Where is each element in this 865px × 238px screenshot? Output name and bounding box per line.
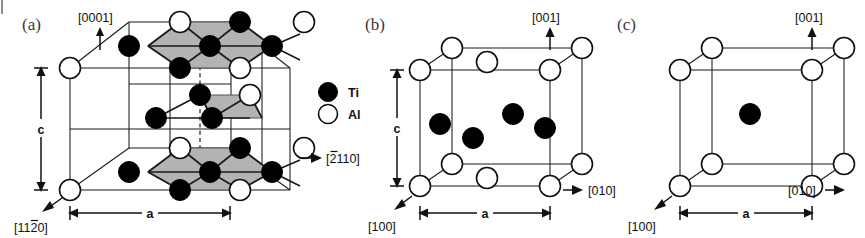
legend-al-swatch-icon (319, 105, 338, 124)
dir-2110-bar: 2 (329, 152, 336, 166)
atom-legend: Ti Al (319, 83, 361, 124)
ti-atom (119, 36, 140, 57)
panel-b-atoms-ti (430, 104, 556, 149)
ti-atom (503, 104, 524, 125)
panel-c-tag: (c) (617, 15, 636, 34)
ti-atom (202, 108, 223, 129)
al-atom (170, 138, 191, 159)
al-atom (60, 180, 81, 201)
panel-a-direction-1120-arrow (42, 198, 62, 212)
panel-a-dimension-a-label: a (147, 207, 155, 221)
ti-atom (463, 128, 484, 149)
panel-a-direction-0001-label: [0001] (78, 11, 113, 25)
al-atom (410, 176, 431, 197)
panel-c-direction-001-arrow (808, 27, 817, 50)
ti-atom (146, 108, 167, 129)
al-atom (572, 154, 593, 175)
al-atom (702, 154, 723, 175)
al-atom (834, 38, 855, 59)
panel-c-direction-100-arrow (654, 196, 672, 210)
al-atom (442, 154, 463, 175)
ti-atom (119, 162, 140, 183)
al-atom (230, 180, 251, 201)
ti-atom (230, 12, 251, 33)
panel-b-direction-100-arrow (394, 196, 412, 210)
al-atom (540, 176, 561, 197)
al-atom-face-center-top (477, 52, 498, 73)
panel-b-tag: (b) (365, 15, 385, 34)
legend-al-label: Al (348, 108, 361, 122)
panel-b-dimension-c: c (389, 68, 406, 188)
ti-atom (262, 162, 283, 183)
ti-atom (535, 118, 556, 139)
panel-c-dimension-a: a (678, 204, 814, 222)
panel-b-direction-001-label: [001] (532, 11, 560, 25)
legend-ti-swatch-icon (319, 83, 338, 102)
al-atom (170, 12, 191, 33)
al-atom (294, 12, 315, 33)
ti-atom (200, 162, 221, 183)
panel-a: (a) [0001] (14, 11, 360, 235)
al-atom (540, 60, 561, 81)
ti-atom-body-center (740, 104, 761, 125)
panel-c-direction-010-label: [010] (788, 184, 816, 198)
dir-2110-post: 110] (336, 152, 359, 166)
ti-atom (230, 138, 251, 159)
panel-c-direction-010-arrow (825, 185, 845, 195)
al-atom (670, 176, 691, 197)
panel-a-tag: (a) (22, 15, 41, 34)
panel-b-dimension-c-label: c (394, 122, 401, 136)
panel-c-atoms-al (670, 38, 855, 197)
svg-text:[2110]: [2110] (326, 152, 360, 166)
dir-1120-bar: 2 (30, 221, 37, 235)
panel-c-direction-001-label: [001] (795, 11, 823, 25)
panel-b: (b) [001] (365, 11, 616, 234)
al-atom (702, 38, 723, 59)
panel-b-dimension-a: a (418, 204, 552, 222)
panel-a-dimension-a: a (68, 204, 232, 222)
ti-atom (170, 58, 191, 79)
al-atom (410, 60, 431, 81)
ti-atom (170, 180, 191, 201)
svg-text:[1120]: [1120] (14, 221, 48, 235)
al-atom (60, 58, 81, 79)
panel-c-direction-100-label: [100] (628, 220, 656, 234)
al-atom (802, 60, 823, 81)
ti-atom (262, 36, 283, 57)
panel-b-direction-010-arrow (563, 185, 583, 195)
al-atom (240, 85, 261, 106)
al-atom (834, 154, 855, 175)
panel-b-direction-010-label: [010] (588, 184, 616, 198)
panel-a-direction-2110-label: [2110] (326, 152, 360, 167)
panel-c: (c) [001] (617, 11, 855, 234)
crystal-structure-figure: (a) [0001] (0, 0, 865, 238)
ti-atom (430, 114, 451, 135)
al-atom (670, 60, 691, 81)
dir-1120-post: 0] (37, 221, 47, 235)
panel-b-direction-001-arrow (546, 27, 555, 50)
panel-b-dimension-a-label: a (482, 207, 490, 221)
dir-1120-pre: [11 (14, 221, 30, 235)
panel-a-dimension-c: c (33, 66, 50, 192)
panel-c-dimension-a-label: a (743, 207, 751, 221)
legend-ti-label: Ti (348, 86, 359, 100)
panel-b-direction-100-label: [100] (368, 220, 396, 234)
al-atom (572, 38, 593, 59)
figure-canvas: (a) [0001] (0, 0, 865, 238)
al-atom (230, 58, 251, 79)
al-atom (442, 38, 463, 59)
panel-a-direction-1120-label: [1120] (14, 221, 48, 236)
al-atom-face-center-bottom (477, 168, 498, 189)
ti-atom (190, 85, 211, 106)
panel-a-dimension-c-label: c (38, 123, 45, 137)
ti-atom (200, 36, 221, 57)
